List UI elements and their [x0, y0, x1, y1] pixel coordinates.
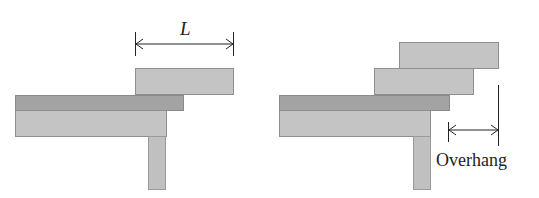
diagram-canvas: L Overhang [0, 0, 539, 198]
dimension-arrows [0, 0, 539, 198]
